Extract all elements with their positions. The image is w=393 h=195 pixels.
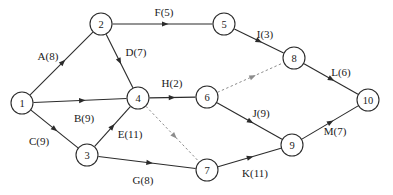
node-label-4: 4 [135,93,141,104]
edge-label-D: D(7) [126,46,147,59]
node-label-6: 6 [204,92,209,103]
node-1[interactable]: 1 [11,92,33,114]
node-label-2: 2 [98,19,103,30]
node-9[interactable]: 9 [281,134,303,156]
node-label-9: 9 [289,140,294,151]
node-5[interactable]: 5 [213,13,235,35]
arrowhead-6-to-8 [249,75,256,80]
node-3[interactable]: 3 [76,144,98,166]
node-label-7: 7 [204,165,209,176]
arrowhead-4-to-7 [170,132,176,138]
node-10[interactable]: 10 [357,89,379,111]
edge-label-E: E(11) [118,128,143,141]
node-8[interactable]: 8 [283,47,305,69]
arrowhead-3-to-7 [146,160,153,165]
arrowhead-4-to-6 [169,95,176,100]
node-label-3: 3 [84,150,89,161]
network-diagram: A(8)B(9)C(9)D(7)E(11)F(5)G(8)H(2)I(3)J(9… [0,0,393,195]
arrowhead-1-to-4 [79,98,86,103]
edge-label-K: K(11) [242,167,268,180]
node-6[interactable]: 6 [196,86,218,108]
node-4[interactable]: 4 [127,87,149,109]
edge-label-A: A(8) [38,50,59,63]
edge-label-G: G(8) [133,174,154,187]
node-2[interactable]: 2 [90,13,112,35]
edge-label-C: C(9) [29,135,50,148]
edge-label-L: L(6) [331,66,351,79]
edge-label-I: I(3) [257,28,274,41]
edge-label-J: J(9) [252,107,269,120]
edge-label-F: F(5) [155,6,174,19]
network-diagram-canvas: A(8)B(9)C(9)D(7)E(11)F(5)G(8)H(2)I(3)J(9… [0,0,393,195]
node-label-5: 5 [221,19,226,30]
node-label-1: 1 [19,98,24,109]
node-label-10: 10 [363,95,374,106]
arrowhead-2-to-4 [116,57,121,64]
arrowhead-2-to-5 [162,21,169,26]
edge-label-H: H(2) [162,77,183,90]
edge-label-B: B(9) [74,112,95,125]
arrowhead-7-to-9 [246,156,253,161]
edge-label-M: M(7) [324,125,347,138]
node-7[interactable]: 7 [196,159,218,181]
node-label-8: 8 [291,53,296,64]
